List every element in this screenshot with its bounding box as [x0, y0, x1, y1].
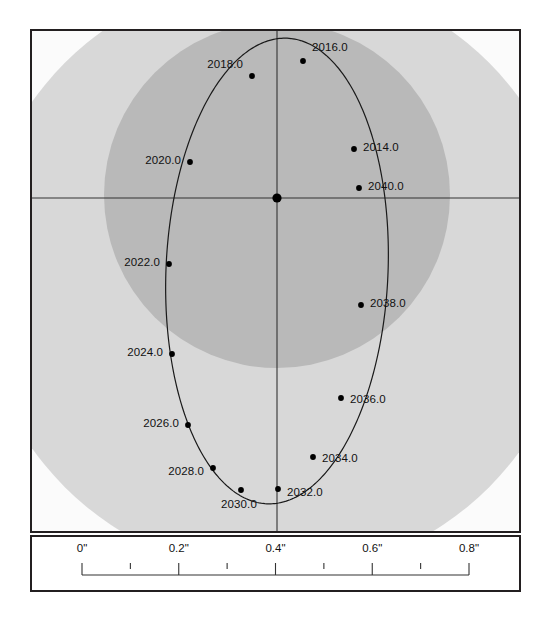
orbit-plot-canvas [32, 31, 519, 531]
epoch-marker [238, 487, 244, 493]
scale-tick-label: 0" [77, 543, 87, 555]
halo-group [32, 31, 519, 531]
figure-root: 2016.02018.02014.02020.02040.02022.02038… [0, 0, 542, 617]
scale-tick-label: 0.8" [459, 543, 479, 555]
epoch-marker [351, 146, 357, 152]
epoch-label: 2030.0 [221, 499, 257, 511]
epoch-label: 2024.0 [127, 347, 163, 359]
epoch-marker [310, 454, 316, 460]
epoch-marker [358, 302, 364, 308]
epoch-marker [185, 422, 191, 428]
scale-tick-label: 0.6" [362, 543, 382, 555]
epoch-marker [356, 185, 362, 191]
epoch-marker [187, 159, 193, 165]
epoch-marker [210, 465, 216, 471]
epoch-marker [169, 351, 175, 357]
scale-tick-label: 0.4" [265, 543, 285, 555]
epoch-marker [275, 486, 281, 492]
epoch-marker [166, 261, 172, 267]
epoch-label: 2022.0 [124, 257, 160, 269]
epoch-label: 2034.0 [322, 453, 358, 465]
epoch-label: 2014.0 [363, 142, 399, 154]
epoch-label: 2016.0 [312, 42, 348, 54]
epoch-label: 2036.0 [350, 394, 386, 406]
epoch-marker [249, 73, 255, 79]
epoch-marker [300, 58, 306, 64]
epoch-label: 2020.0 [145, 155, 181, 167]
epoch-label: 2040.0 [368, 181, 404, 193]
epoch-marker [338, 395, 344, 401]
epoch-label: 2026.0 [143, 418, 179, 430]
scale-bar-tick-group [82, 563, 469, 575]
orbit-plot-panel: 2016.02018.02014.02020.02040.02022.02038… [30, 29, 521, 533]
epoch-label: 2032.0 [287, 487, 323, 499]
epoch-label: 2028.0 [168, 466, 204, 478]
scale-tick-label: 0.2" [169, 543, 189, 555]
scale-bar-panel: 0"0.2"0.4"0.6"0.8" [30, 535, 521, 592]
epoch-label: 2038.0 [370, 298, 406, 310]
primary-star-marker [272, 193, 281, 202]
epoch-label: 2018.0 [207, 59, 243, 71]
